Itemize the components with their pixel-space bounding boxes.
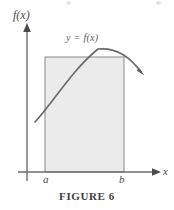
x-tick-label-b: b <box>119 174 125 185</box>
y-axis-label: f(x) <box>13 9 30 21</box>
figure-caption: FIGURE 6 <box>0 190 174 202</box>
y-axis-arrowhead-icon <box>23 23 31 32</box>
figure-container: f(x) x y = f(x) a b FIGURE 6 <box>0 0 174 210</box>
curve-arrowhead-icon <box>137 68 145 75</box>
x-axis-arrowhead-icon <box>152 168 161 176</box>
x-tick-label-a: a <box>43 174 49 185</box>
x-axis-label: x <box>163 166 168 177</box>
curve-equation-label: y = f(x) <box>66 33 98 43</box>
shaded-region-rect <box>45 57 124 172</box>
